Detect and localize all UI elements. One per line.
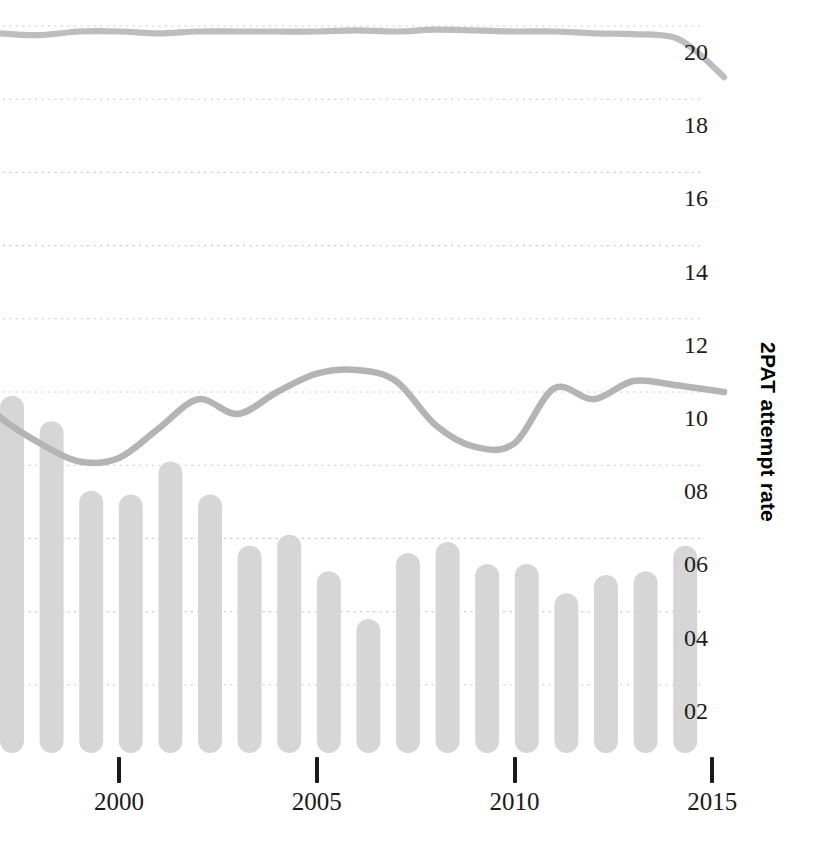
y-axis-title: 2PAT attempt rate [738,0,798,863]
y-axis-tick-label: 20 [684,40,708,64]
y-axis-tick-label: 16 [684,186,708,210]
y-axis-tick-label: 14 [684,260,708,284]
y-axis-tick-label: 06 [684,552,708,576]
y-axis-title-text: 2PAT attempt rate [756,342,780,522]
y-axis-tick-label: 10 [684,406,708,430]
y-axis-tick-label: 08 [684,479,708,503]
y-axis-tick-label: 02 [684,699,708,723]
chart-container: 02040608101214161820 2PAT attempt rate 2… [0,0,813,863]
y-axis-tick-label: 18 [684,113,708,137]
line-series-group [0,0,678,863]
line-series-path [0,30,724,78]
line-series-path [0,370,724,463]
y-axis-tick-label: 04 [684,626,708,650]
y-axis-tick-label: 12 [684,333,708,357]
plot-area [0,0,678,863]
